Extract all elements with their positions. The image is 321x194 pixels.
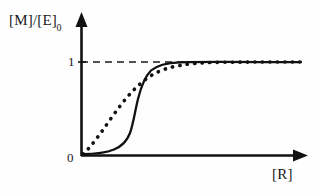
y-axis-arrowhead bbox=[76, 12, 88, 27]
y-axis-label-main: [M]/[E] bbox=[9, 12, 57, 28]
origin-tick-label-zero: 0 bbox=[67, 150, 74, 166]
x-axis-arrowhead bbox=[293, 150, 308, 162]
y-axis-label-subscript: 0 bbox=[57, 22, 62, 33]
x-axis-label: [R] bbox=[272, 166, 293, 183]
y-tick-label-one: 1 bbox=[68, 54, 75, 70]
curve-hyperbolic-dotted bbox=[83, 62, 300, 154]
y-axis-label: [M]/[E]0 bbox=[9, 12, 62, 31]
curve-sigmoidal-solid bbox=[82, 62, 300, 154]
figure-container: [M]/[E]0 [R] 1 0 bbox=[0, 0, 321, 194]
